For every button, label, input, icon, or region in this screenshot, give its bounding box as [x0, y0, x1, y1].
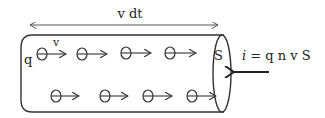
- length-label: v dt: [116, 6, 143, 21]
- area-label: S: [214, 48, 223, 63]
- electron: [121, 47, 151, 59]
- electron: [37, 48, 66, 60]
- electron: [187, 90, 216, 102]
- electron: [51, 90, 79, 102]
- cross-section-ellipse: [213, 35, 231, 112]
- electron: [77, 48, 107, 60]
- electron-row-top: [37, 47, 196, 60]
- electron-row-bottom: [51, 90, 216, 102]
- conductor-diagram: v dt q S v: [0, 0, 325, 118]
- velocity-label: v: [52, 36, 60, 49]
- electron: [143, 90, 172, 102]
- current-formula: i = q n v S: [242, 48, 311, 63]
- charge-label: q: [24, 52, 32, 67]
- current-formula-rest: = q n v S: [246, 48, 311, 63]
- electron: [165, 47, 196, 59]
- cylinder-body: [21, 35, 224, 112]
- electron: [100, 90, 128, 102]
